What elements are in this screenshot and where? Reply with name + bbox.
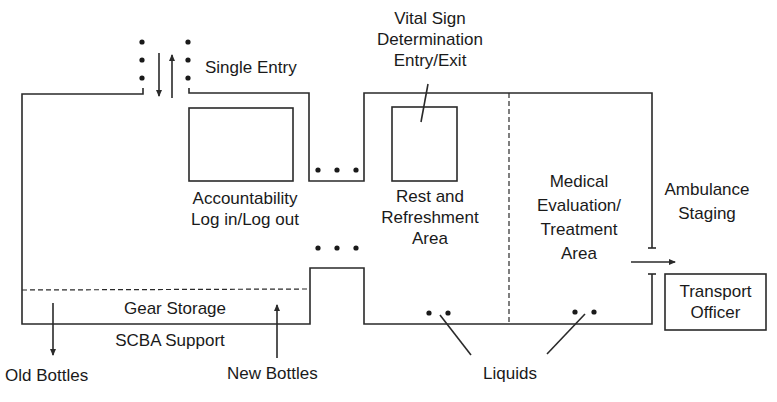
gear-storage-divider bbox=[22, 289, 309, 290]
rest-area-label: Rest and Refreshment Area bbox=[370, 186, 490, 249]
vital-sign-box bbox=[392, 107, 457, 181]
scba-support-label: SCBA Support bbox=[95, 330, 245, 351]
single-entry-label: Single Entry bbox=[205, 57, 297, 78]
liquids-label: Liquids bbox=[470, 363, 550, 384]
transport-officer-label: Transport Officer bbox=[665, 281, 766, 323]
new-bottles-label: New Bottles bbox=[227, 363, 318, 384]
ambulance-staging-label: Ambulance Staging bbox=[652, 178, 762, 226]
accountability-label: Accountability Log in/Log out bbox=[170, 188, 320, 230]
accountability-box bbox=[189, 108, 293, 181]
vital-sign-label: Vital Sign Determination Entry/Exit bbox=[360, 8, 500, 71]
medical-area-label: Medical Evaluation/ Treatment Area bbox=[520, 170, 638, 266]
old-bottles-label: Old Bottles bbox=[5, 365, 88, 386]
gear-storage-label: Gear Storage bbox=[100, 298, 250, 319]
